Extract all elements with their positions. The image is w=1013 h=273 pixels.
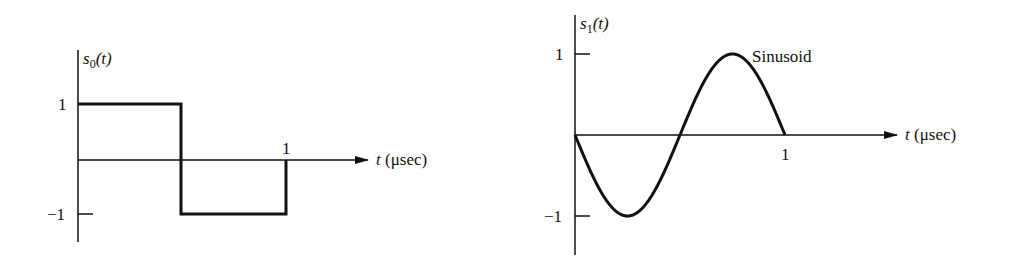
s0-square-wave	[78, 104, 286, 214]
s1-y-label-fn: s	[580, 14, 587, 33]
chart-s1	[575, 15, 897, 255]
s1-x-label-unit: (μsec)	[914, 125, 956, 144]
s0-y-label-arg: (t)	[96, 49, 112, 68]
s1-annotation-sinusoid: Sinusoid	[752, 48, 812, 65]
figure-canvas	[0, 0, 1013, 273]
s0-x-label-unit: (μsec)	[385, 150, 427, 169]
s1-y-label-sub: 1	[587, 22, 593, 36]
s0-y-label-fn: s	[83, 49, 90, 68]
s0-ytick-label-1: 1	[58, 96, 67, 113]
s1-x-label: t (μsec)	[905, 126, 956, 143]
s1-y-label: s1(t)	[580, 15, 609, 32]
s1-xtick-label-1: 1	[781, 146, 790, 163]
s1-ytick-label-1: 1	[555, 46, 564, 63]
s1-y-label-arg: (t)	[593, 14, 609, 33]
s0-xtick-label-1: 1	[282, 140, 291, 157]
s0-ytick-label-neg1: −1	[47, 206, 65, 223]
s1-ytick-label-neg1: −1	[544, 208, 562, 225]
s0-y-label: s0(t)	[83, 50, 112, 67]
s0-x-label: t (μsec)	[376, 151, 427, 168]
s1-x-label-var: t	[905, 125, 910, 144]
s0-x-label-var: t	[376, 150, 381, 169]
chart-s0	[78, 50, 368, 242]
s0-y-label-sub: 0	[90, 57, 96, 71]
